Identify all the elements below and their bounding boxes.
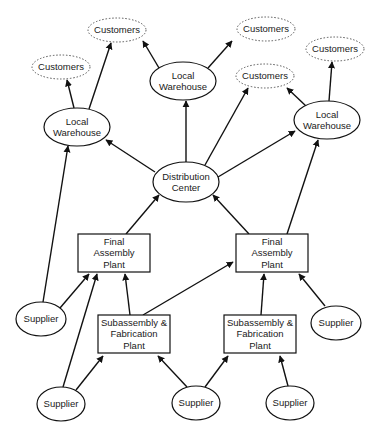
- node-lw3: LocalWarehouse: [294, 101, 360, 139]
- supply-chain-diagram: CustomersCustomersCustomersCustomersCust…: [0, 0, 381, 435]
- edge-sfp1-to-fap1: [125, 274, 130, 315]
- node-label: Final: [104, 236, 125, 247]
- edge-sup5-to-sfp2: [280, 356, 288, 386]
- edge-lw1-to-cust1: [89, 43, 111, 109]
- edge-fap2-to-dc: [213, 195, 249, 234]
- edge-sup4-to-sfp1: [158, 356, 187, 387]
- node-label: Supplier: [24, 313, 59, 324]
- node-label: Subassembly &: [227, 317, 294, 328]
- edge-dc-to-cust4: [205, 88, 248, 165]
- node-label: Local: [172, 70, 195, 81]
- node-cust2: Customers: [32, 55, 90, 79]
- node-label: Assembly: [251, 247, 292, 258]
- edge-sfp2-to-fap2: [261, 274, 264, 315]
- node-sup2: Supplier: [311, 306, 361, 340]
- edge-sup2-to-fap2: [299, 274, 325, 306]
- edge-lw2-to-cust1: [143, 41, 159, 68]
- node-label: Customers: [38, 61, 84, 72]
- node-label: Local: [66, 116, 89, 127]
- diagram-canvas: CustomersCustomersCustomersCustomersCust…: [0, 0, 381, 435]
- edge-sup3-to-sfp1: [76, 356, 103, 390]
- edge-lw3-to-cust5: [329, 62, 332, 101]
- node-cust4: Customers: [236, 64, 294, 88]
- edge-lw3-to-cust4: [287, 88, 306, 106]
- edge-fap1-to-dc: [126, 195, 159, 234]
- node-label: Assembly: [93, 247, 134, 258]
- edge-dc-to-lw3: [218, 131, 295, 177]
- edge-lw1-to-cust2: [67, 80, 74, 108]
- node-label: Warehouse: [53, 127, 101, 138]
- node-sup4: Supplier: [172, 386, 220, 420]
- node-cust5: Customers: [306, 37, 364, 61]
- node-label: Local: [316, 109, 339, 120]
- edge-dc-to-lw1: [106, 140, 155, 172]
- node-label: Plant: [261, 259, 283, 270]
- node-label: Fabrication: [237, 328, 284, 339]
- node-label: Customers: [243, 23, 289, 34]
- node-fap1: FinalAssemblyPlant: [78, 234, 150, 272]
- node-sup5: Supplier: [266, 386, 314, 420]
- node-label: Plant: [103, 259, 125, 270]
- node-label: Plant: [249, 340, 271, 351]
- nodes-layer: CustomersCustomersCustomersCustomersCust…: [16, 17, 364, 421]
- node-label: Warehouse: [303, 120, 351, 131]
- node-label: Customers: [94, 24, 140, 35]
- edge-sup1-to-lw1: [43, 146, 68, 302]
- edge-fap2-to-lw3: [287, 140, 318, 234]
- node-lw1: LocalWarehouse: [44, 108, 110, 146]
- edge-lw2-to-cust3: [208, 41, 232, 68]
- node-label: Supplier: [273, 397, 308, 408]
- node-sfp2: Subassembly &FabricationPlant: [224, 315, 296, 353]
- node-sup1: Supplier: [16, 302, 66, 336]
- node-cust3: Customers: [237, 17, 295, 41]
- node-cust1: Customers: [88, 18, 146, 42]
- node-label: Fabrication: [111, 328, 158, 339]
- edge-sup1-to-fap1: [60, 274, 89, 308]
- edge-sfp1-to-fap2: [143, 262, 233, 315]
- node-label: Final: [262, 236, 283, 247]
- node-label: Supplier: [44, 398, 79, 409]
- node-sfp1: Subassembly &FabricationPlant: [98, 315, 170, 353]
- node-label: Customers: [312, 43, 358, 54]
- node-sup3: Supplier: [37, 387, 85, 421]
- node-label: Center: [172, 182, 201, 193]
- edge-sup4-to-sfp2: [205, 356, 228, 387]
- node-label: Supplier: [179, 397, 214, 408]
- node-label: Subassembly &: [101, 317, 168, 328]
- node-dc: DistributionCenter: [153, 162, 219, 202]
- node-label: Customers: [242, 70, 288, 81]
- node-fap2: FinalAssemblyPlant: [236, 234, 308, 272]
- node-label: Distribution: [162, 171, 210, 182]
- node-lw2: LocalWarehouse: [150, 62, 216, 100]
- node-label: Warehouse: [159, 81, 207, 92]
- node-label: Plant: [123, 340, 145, 351]
- node-label: Supplier: [319, 317, 354, 328]
